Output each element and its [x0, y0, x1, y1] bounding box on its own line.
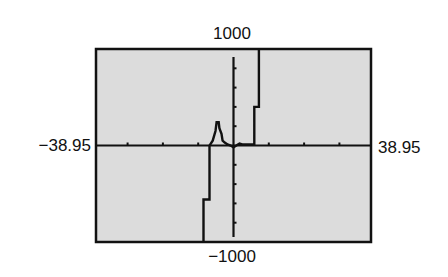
- xmax-label: 38.95: [378, 139, 421, 156]
- ymax-label: 1000: [213, 25, 251, 42]
- ymin-label: −1000: [208, 248, 256, 265]
- calculator-graph: 1000 −1000 −38.95 38.95: [0, 0, 448, 277]
- xmin-label: −38.95: [39, 137, 91, 154]
